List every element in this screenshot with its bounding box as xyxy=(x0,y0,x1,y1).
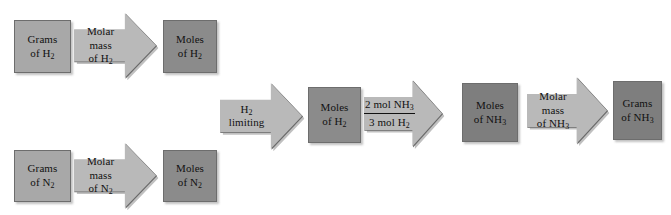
node-grams-nh3: Grams of NH3 xyxy=(613,81,662,140)
mole-ratio-numerator: 2 mol NH3 xyxy=(364,98,415,112)
node-molar-mass-n2-text: Molar mass of N2 xyxy=(76,142,125,209)
node-mole-ratio-text: 2 mol NH3 3 mol H2 xyxy=(366,79,413,148)
node-moles-n2-line-1: Moles xyxy=(176,162,204,176)
node-moles-nh3-line-1: Moles xyxy=(476,99,504,113)
node-moles-nh3: Moles of NH3 xyxy=(462,83,518,142)
node-moles-h2-mid-line-1: Moles xyxy=(321,101,349,115)
node-molar-mass-nh3-line-2: mass xyxy=(542,104,564,117)
node-molar-mass-nh3-line-1: Molar xyxy=(539,90,566,103)
node-h2-limiting-line-2: limiting xyxy=(229,116,265,129)
node-molar-mass-n2-line-3: of N2 xyxy=(88,182,112,195)
node-h2-limiting: H2 limiting xyxy=(220,82,302,150)
node-molar-mass-h2: Molar mass of H2 xyxy=(74,12,156,79)
node-grams-h2-line-1: Grams xyxy=(28,33,58,47)
node-moles-n2-line-2: of N2 xyxy=(178,176,202,190)
node-moles-n2: Moles of N2 xyxy=(163,150,217,202)
node-moles-h2-top: Moles of H2 xyxy=(163,20,217,73)
node-moles-h2-mid: Moles of H2 xyxy=(308,87,361,143)
node-grams-h2-line-2: of H2 xyxy=(30,47,54,61)
mole-ratio-fraction: 2 mol NH3 3 mol H2 xyxy=(364,98,415,128)
node-grams-nh3-line-2: of NH3 xyxy=(621,111,653,125)
node-grams-n2-line-1: Grams xyxy=(28,162,58,176)
node-grams-n2-line-2: of N2 xyxy=(30,176,54,190)
node-mole-ratio: 2 mol NH3 3 mol H2 xyxy=(364,79,442,148)
fraction-bar-icon xyxy=(364,113,415,114)
node-h2-limiting-line-1: H2 xyxy=(241,103,253,116)
node-moles-nh3-line-2: of NH3 xyxy=(474,113,506,127)
node-grams-nh3-line-1: Grams xyxy=(623,97,653,111)
node-molar-mass-h2-text: Molar mass of H2 xyxy=(76,12,125,79)
node-molar-mass-nh3-line-3: of NH3 xyxy=(537,117,569,130)
node-moles-h2-top-line-2: of H2 xyxy=(178,47,202,61)
node-h2-limiting-text: H2 limiting xyxy=(222,82,271,150)
node-molar-mass-nh3: Molar mass of NH3 xyxy=(527,76,607,145)
node-molar-mass-h2-line-3: of H2 xyxy=(88,52,112,65)
node-moles-h2-mid-line-2: of H2 xyxy=(322,115,346,129)
node-grams-n2: Grams of N2 xyxy=(14,150,71,202)
node-molar-mass-n2-line-2: mass xyxy=(89,169,111,182)
node-molar-mass-nh3-text: Molar mass of NH3 xyxy=(529,76,577,145)
node-molar-mass-h2-line-1: Molar xyxy=(87,25,114,38)
node-molar-mass-n2-line-1: Molar xyxy=(87,155,114,168)
node-molar-mass-n2: Molar mass of N2 xyxy=(74,142,156,209)
stoichiometry-flowchart: Grams of H2 Molar mass of H2 Moles of H2… xyxy=(0,0,671,215)
node-grams-h2: Grams of H2 xyxy=(14,20,71,73)
mole-ratio-denominator: 3 mol H2 xyxy=(364,115,415,129)
node-molar-mass-h2-line-2: mass xyxy=(89,39,111,52)
node-moles-h2-top-line-1: Moles xyxy=(176,33,204,47)
